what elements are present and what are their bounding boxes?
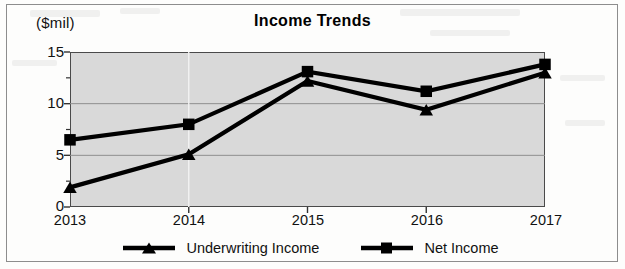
chart-title: Income Trends xyxy=(0,12,625,30)
legend-label-net-income: Net Income xyxy=(424,240,498,256)
y-tick-label-15: 15 xyxy=(30,43,64,60)
x-tick-label-2015: 2015 xyxy=(278,212,338,228)
data-point-net-income-2016 xyxy=(421,86,433,98)
legend-label-underwriting-income: Underwriting Income xyxy=(186,240,319,256)
y-tick-label-5: 5 xyxy=(30,146,64,163)
income-trends-figure: ($mil) Income Trends 15 10 5 0 2013 2014… xyxy=(0,0,625,269)
plot-canvas xyxy=(70,52,545,207)
x-tick-label-2017: 2017 xyxy=(516,212,576,228)
x-tick-label-2013: 2013 xyxy=(40,212,100,228)
legend-marker-triangle-icon xyxy=(121,240,177,256)
legend-entry-net-income[interactable]: Net Income xyxy=(359,240,498,256)
legend-entry-underwriting-income[interactable]: Underwriting Income xyxy=(121,240,319,256)
data-point-net-income-2013 xyxy=(64,134,76,146)
y-tick-label-10: 10 xyxy=(30,94,64,111)
chart-legend: Underwriting Income Net Income xyxy=(70,236,550,260)
data-point-net-income-2014 xyxy=(183,119,195,131)
x-tick-label-2016: 2016 xyxy=(397,212,457,228)
legend-marker-square-icon xyxy=(359,240,415,256)
x-tick-label-2014: 2014 xyxy=(159,212,219,228)
